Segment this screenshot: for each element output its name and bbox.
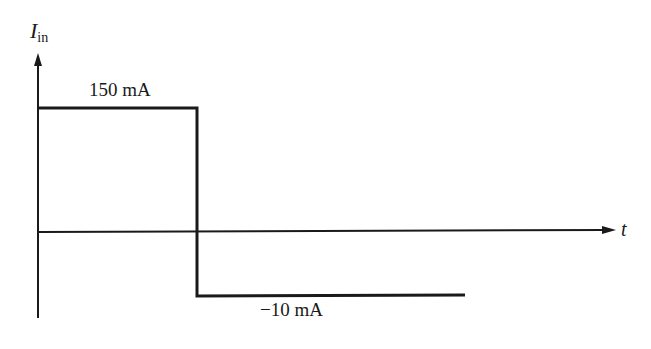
x-axis-label: t bbox=[621, 218, 627, 241]
y-axis-arrow-icon bbox=[34, 53, 42, 66]
current-waveform bbox=[38, 108, 465, 296]
low-level-label: −10 mA bbox=[260, 299, 323, 321]
waveform-diagram bbox=[0, 0, 651, 349]
y-axis-label: Iin bbox=[30, 18, 48, 46]
high-level-label: 150 mA bbox=[89, 79, 151, 101]
x-axis-arrow-icon bbox=[602, 226, 616, 234]
x-axis bbox=[38, 230, 606, 232]
